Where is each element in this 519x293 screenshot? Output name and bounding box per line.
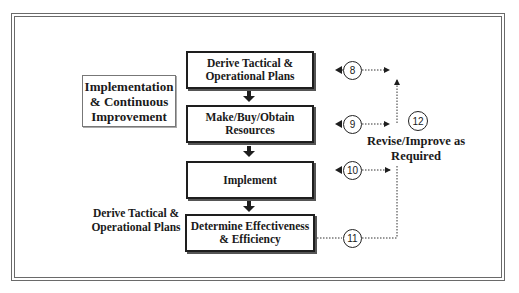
marker-12: 12: [408, 111, 428, 131]
step-implement: Implement: [186, 161, 314, 199]
marker-11: 11: [343, 229, 362, 248]
revise-improve-label: Revise/Improve as Required: [366, 134, 466, 164]
step-determine-effectiveness: Determine Effectiveness & Efficiency: [185, 214, 315, 252]
marker-10: 10: [343, 161, 362, 180]
marker-9: 9: [343, 115, 362, 134]
side-label-derive-plans: Derive Tactical & Operational Plans: [88, 206, 184, 234]
marker-8: 8: [343, 61, 362, 80]
implementation-title-box: Implementation & Continuous Improvement: [82, 75, 176, 127]
step-derive-plans: Derive Tactical & Operational Plans: [186, 51, 314, 89]
step-make-buy-obtain: Make/Buy/Obtain Resources: [186, 105, 314, 143]
